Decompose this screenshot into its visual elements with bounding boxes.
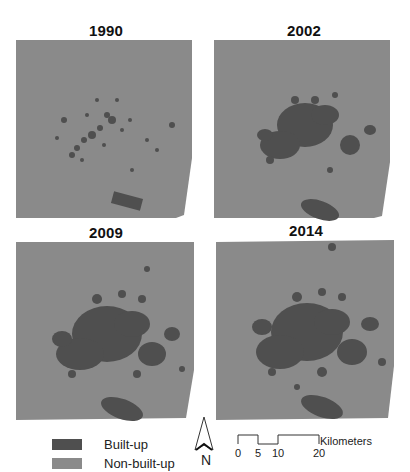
panel-title: 2002 [214, 22, 394, 39]
north-label: N [201, 452, 211, 468]
scale-tick-5: 5 [255, 447, 261, 459]
legend-item-non-built-up: Non-built-up [52, 455, 175, 471]
panel-title: 2009 [16, 224, 196, 241]
scale-tick-0: 0 [235, 447, 241, 459]
panel-title: 1990 [16, 22, 196, 39]
map-panel-2014: 2014 [216, 220, 396, 415]
built-up-swatch [52, 439, 82, 450]
north-arrow-icon [193, 416, 215, 454]
legend-label: Built-up [104, 437, 148, 452]
scale-unit: Kilometers [320, 435, 372, 447]
map-panel-2002: 2002 [214, 20, 394, 215]
legend-item-built-up: Built-up [52, 436, 175, 452]
panel-title: 2014 [216, 222, 396, 239]
map-1990 [16, 40, 196, 236]
legend-label: Non-built-up [104, 456, 175, 471]
map-2009 [16, 242, 196, 424]
map-panel-2009: 2009 [16, 222, 196, 417]
non-built-up-swatch [52, 458, 82, 469]
map-2014 [216, 240, 396, 424]
map-panel-1990: 1990 [16, 20, 196, 215]
map-2002 [214, 40, 394, 236]
scale-tick-10: 10 [272, 447, 284, 459]
legend: Built-up Non-built-up [52, 436, 175, 472]
scale-bar [232, 432, 322, 448]
scale-tick-20: 20 [313, 447, 325, 459]
